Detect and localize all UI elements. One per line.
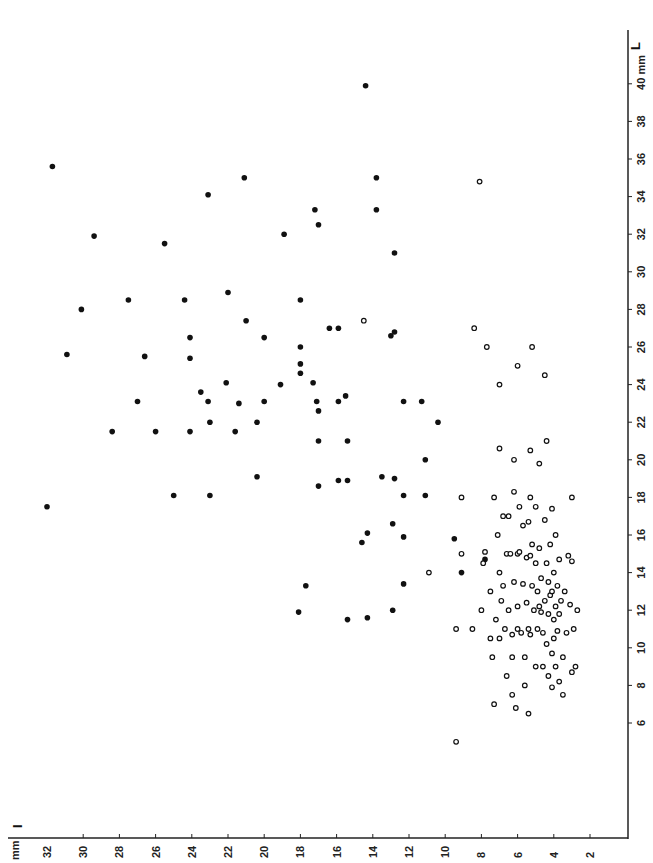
x-tick-label: 12 (403, 846, 415, 858)
filled-data-point (187, 335, 193, 341)
filled-data-point (336, 478, 342, 484)
x-tick-label: 16 (331, 846, 343, 858)
filled-data-point (401, 493, 407, 499)
filled-data-point (298, 297, 304, 303)
open-data-point (535, 627, 540, 632)
filled-data-point (205, 399, 211, 405)
open-data-point (506, 608, 511, 613)
open-data-point (470, 627, 475, 632)
open-data-point (530, 345, 535, 350)
open-data-point (541, 664, 546, 669)
open-data-point (550, 685, 555, 690)
filled-data-point (374, 175, 380, 181)
open-data-point (537, 546, 542, 551)
filled-data-point (205, 192, 211, 198)
open-data-point (510, 655, 515, 660)
filled-data-point (435, 419, 441, 425)
y-axis-name: L (628, 42, 643, 50)
filled-data-point (109, 429, 115, 435)
y-tick-label: 20 (635, 454, 647, 466)
open-data-point (544, 561, 549, 566)
x-tick-label: 24 (186, 845, 198, 858)
filled-data-point (459, 570, 465, 576)
filled-data-point (312, 207, 318, 213)
x-tick-label: 32 (41, 846, 53, 858)
filled-data-point (423, 493, 429, 499)
filled-data-point (390, 607, 396, 613)
open-data-point (526, 627, 531, 632)
filled-data-point (243, 318, 249, 324)
open-data-point (512, 490, 517, 495)
open-data-point (543, 518, 548, 523)
open-data-point (483, 550, 488, 555)
open-data-point (494, 617, 499, 622)
filled-data-point (392, 329, 398, 335)
open-data-point (427, 570, 432, 575)
filled-data-point (225, 290, 231, 296)
filled-data-point (153, 429, 159, 435)
x-tick-label: 2 (584, 852, 596, 858)
open-data-point (553, 604, 558, 609)
filled-data-point (187, 356, 193, 362)
open-data-point (508, 552, 513, 557)
y-tick-label: 32 (635, 228, 647, 240)
open-data-point (544, 642, 549, 647)
open-data-point (543, 373, 548, 378)
y-tick-label: 38 (635, 115, 647, 127)
x-tick-label: 14 (367, 845, 379, 858)
filled-data-point (126, 297, 132, 303)
filled-data-point (336, 325, 342, 331)
y-unit-label: mm (635, 55, 647, 75)
open-data-point (512, 458, 517, 463)
y-tick-label: 30 (635, 266, 647, 278)
open-data-point (519, 631, 524, 636)
filled-data-point (345, 478, 351, 484)
filled-data-point (392, 250, 398, 256)
filled-data-point (401, 581, 407, 587)
open-data-point (492, 495, 497, 500)
filled-data-point (359, 540, 365, 546)
x-tick-label: 26 (150, 846, 162, 858)
open-data-point (557, 557, 562, 562)
filled-data-point (44, 504, 50, 510)
open-data-point (459, 552, 464, 557)
filled-data-point (171, 493, 177, 499)
open-data-point (573, 664, 578, 669)
open-data-point (454, 627, 459, 632)
open-data-point (555, 584, 560, 589)
filled-data-point (310, 380, 316, 386)
open-data-point (553, 533, 558, 538)
open-data-point (517, 505, 522, 510)
open-data-point (546, 612, 551, 617)
y-tick-label: 40 (635, 78, 647, 90)
open-data-point (561, 693, 566, 698)
open-data-point (537, 461, 542, 466)
filled-data-point (242, 175, 248, 181)
filled-data-point (365, 530, 371, 536)
filled-data-point (419, 399, 425, 405)
open-data-point (497, 382, 502, 387)
open-data-point (548, 542, 553, 547)
open-data-point (497, 636, 502, 641)
filled-data-point (135, 399, 141, 405)
open-data-point (523, 683, 528, 688)
y-tick-label: 18 (635, 491, 647, 503)
open-data-point (503, 627, 508, 632)
open-data-point (550, 651, 555, 656)
open-data-point (535, 589, 540, 594)
open-data-point (530, 584, 535, 589)
y-tick-label: 34 (635, 190, 647, 203)
filled-data-point (207, 419, 213, 425)
open-data-point (524, 600, 529, 605)
scatter-chart: 3230282624222018161412108642mmI681012141… (0, 0, 653, 863)
x-tick-label: 10 (439, 846, 451, 858)
filled-data-point (91, 233, 97, 239)
x-axis-name: I (10, 824, 25, 828)
filled-data-point (316, 438, 322, 444)
open-data-point (544, 439, 549, 444)
open-data-point (497, 446, 502, 451)
open-data-point (570, 670, 575, 675)
open-data-point (528, 632, 533, 637)
open-data-point (515, 604, 520, 609)
open-data-point (559, 599, 564, 604)
